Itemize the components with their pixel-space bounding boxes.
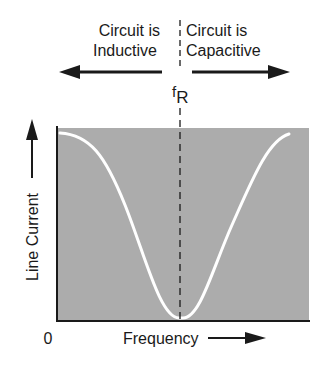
y-axis-arrow [26,119,38,178]
y-axis-label: Line Current [24,192,41,281]
inductive-arrow [59,65,162,79]
capacitive-label-line2: Capacitive [186,42,261,59]
inductive-label-line1: Circuit is [99,22,160,39]
inductive-label-line2: Inductive [93,42,157,59]
origin-label: 0 [44,330,53,347]
plot-area [57,128,309,320]
capacitive-label-line1: Circuit is [186,22,247,39]
x-axis-arrow [208,332,266,344]
resonance-chart: Circuit is Inductive Circuit is Capaciti… [0,0,325,373]
resonance-label: fR [172,83,188,107]
capacitive-arrow [192,65,290,79]
x-axis-label: Frequency [123,330,199,347]
